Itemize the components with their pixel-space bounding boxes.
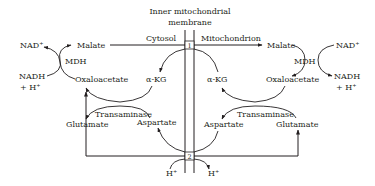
mito-akg: α-KG [207,75,227,84]
mito-malate: Malate [267,41,296,50]
inner-membrane [185,30,194,173]
mito-nadh: NADH [334,72,360,81]
diagram-canvas: Inner mitochondrial membrane Cytosol Mit… [0,0,375,186]
cytosol-malate: Malate [77,41,106,50]
transporter-2: 2 [86,92,298,161]
mito-akg-arrow [194,49,218,72]
mito-nad: NAD⁺ [336,41,359,50]
cytosol-aspartate-arrow [158,128,185,152]
mito-nad-to-nadh-arrow [318,45,334,76]
membrane-title-line1: Inner mitochondrial [149,7,231,16]
cytosol-aspartate: Aspartate [136,118,177,127]
mito-nadh-h: + H⁺ [336,83,356,92]
mito-transaminase: Transaminase [237,110,294,119]
membrane-title-line2: membrane [168,18,212,27]
cytosol-mdh: MDH [65,57,87,66]
cytosol-proton: H⁺ [166,169,177,178]
cytosol-akg-arrow [160,49,185,72]
mito-aspartate: Aspartate [203,120,244,129]
mito-glutamate: Glutamate [276,120,319,129]
transporter-2-number: 2 [187,153,191,161]
cytosol-nadh: NADH [19,72,45,81]
mito-proton: H⁺ [208,169,219,178]
mito-oxaloacetate: Oxaloacetate [266,75,319,84]
transporter-1-number: 1 [187,42,191,50]
cytosol-label: Cytosol [146,34,177,43]
cytosol-glutamate: Glutamate [66,120,109,129]
proton-in-arrow [170,159,185,169]
mito-oxaloacetate-to-akg-arrow [222,86,285,102]
cytosol-nadh-h: + H⁺ [20,83,40,92]
cytosol-akg: α-KG [146,75,166,84]
mito-aspartate-arrow [194,131,218,152]
malate-aspartate-shuttle-diagram: Inner mitochondrial membrane Cytosol Mit… [0,0,375,186]
cytosol-oxaloacetate: Oxaloacetate [75,75,128,84]
proton-out-arrow [194,159,209,169]
mitochondrion-label: Mitochondrion [201,34,261,43]
cytosol-akg-to-oxaloacetate-arrow [86,86,152,102]
cytosol-nad: NAD⁺ [20,41,43,50]
